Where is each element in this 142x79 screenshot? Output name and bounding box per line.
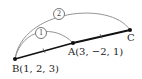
arc-2-label: 2 xyxy=(53,8,65,20)
point-b xyxy=(13,57,17,61)
point-a-label: A(3, −2, 1) xyxy=(68,47,123,57)
arc-1-label: 1 xyxy=(35,27,47,39)
point-c-label: C xyxy=(127,33,135,43)
point-b-label: B(1, 2, 3) xyxy=(12,64,59,74)
point-a xyxy=(71,41,75,45)
diagram-canvas: 1 2 B(1, 2, 3) A(3, −2, 1) C xyxy=(0,0,142,79)
